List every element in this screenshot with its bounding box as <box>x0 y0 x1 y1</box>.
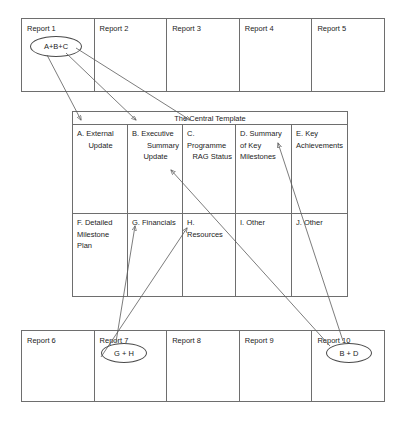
report-cell-6[interactable]: Report 6 <box>22 331 95 401</box>
top-reports-table: Report 1 Report 2 Report 3 Report 4 Repo… <box>21 18 385 92</box>
bottom-reports-table: Report 6 Report 7 Report 8 Report 9 Repo… <box>21 330 385 402</box>
diagram-canvas: Report 1 Report 2 Report 3 Report 4 Repo… <box>0 0 409 424</box>
cell-line-2: of Key <box>240 140 288 152</box>
cell-line-1: I. Other <box>240 217 288 229</box>
report-cell-4[interactable]: Report 4 <box>240 19 313 91</box>
cell-line-2: Achievements <box>296 140 344 152</box>
central-template-title-text: The Central Template <box>174 114 246 123</box>
report-cell-2[interactable]: Report 2 <box>95 19 168 91</box>
template-cell-g[interactable]: G. Financials <box>128 214 183 296</box>
report-cell-7[interactable]: Report 7 <box>95 331 168 401</box>
report-label: Report 5 <box>317 24 346 33</box>
report-label: Report 1 <box>27 24 56 33</box>
report-label: Report 2 <box>100 24 129 33</box>
report-label: Report 8 <box>172 336 201 345</box>
report-cell-8[interactable]: Report 8 <box>167 331 240 401</box>
cell-line-1: J. Other <box>296 217 344 229</box>
ellipse-bd[interactable]: B + D <box>326 343 372 363</box>
template-cell-a[interactable]: A. External Update <box>73 125 128 213</box>
report-cell-9[interactable]: Report 9 <box>240 331 313 401</box>
cell-line-3: Update <box>132 151 179 163</box>
report-label: Report 3 <box>172 24 201 33</box>
cell-line-2: Summary <box>132 140 179 152</box>
template-cell-b[interactable]: B. Executive Summary Update <box>128 125 183 213</box>
ellipse-gh[interactable]: G + H <box>101 343 147 363</box>
ellipse-label: B + D <box>340 349 359 358</box>
cell-line-1: G. Financials <box>132 217 179 229</box>
ellipse-abc[interactable]: A+B+C <box>30 36 82 57</box>
template-cell-i[interactable]: I. Other <box>236 214 292 296</box>
cell-line-1: F. Detailed <box>77 217 124 229</box>
ellipse-label: G + H <box>114 349 134 358</box>
ellipse-label: A+B+C <box>44 42 68 51</box>
cell-line-1: A. External <box>77 128 124 140</box>
cell-line-1: C. Programme <box>187 128 232 151</box>
cell-line-3: Milestones <box>240 151 288 163</box>
report-cell-5[interactable]: Report 5 <box>312 19 384 91</box>
report-label: Report 9 <box>245 336 274 345</box>
template-cell-h[interactable]: H. Resources <box>183 214 236 296</box>
cell-line-2: Update <box>77 140 124 152</box>
cell-line-1: E. Key <box>296 128 344 140</box>
cell-line-2: RAG Status <box>187 151 232 163</box>
central-template-row-2: F. Detailed Milestone Plan G. Financials… <box>73 214 347 296</box>
template-cell-d[interactable]: D. Summary of Key Milestones <box>236 125 292 213</box>
cell-line-2: Milestone Plan <box>77 229 124 252</box>
template-cell-f[interactable]: F. Detailed Milestone Plan <box>73 214 128 296</box>
cell-line-1: H. Resources <box>187 217 232 240</box>
report-cell-10[interactable]: Report 10 <box>312 331 384 401</box>
report-label: Report 6 <box>27 336 56 345</box>
cell-line-1: D. Summary <box>240 128 288 140</box>
central-template-title: The Central Template <box>73 112 347 125</box>
cell-line-1: B. Executive <box>132 128 179 140</box>
central-template-table: The Central Template A. External Update … <box>72 111 348 297</box>
template-cell-e[interactable]: E. Key Achievements <box>292 125 347 213</box>
report-label: Report 4 <box>245 24 274 33</box>
template-cell-c[interactable]: C. Programme RAG Status <box>183 125 236 213</box>
template-cell-j[interactable]: J. Other <box>292 214 347 296</box>
central-template-row-1: A. External Update B. Executive Summary … <box>73 125 347 214</box>
report-cell-3[interactable]: Report 3 <box>167 19 240 91</box>
